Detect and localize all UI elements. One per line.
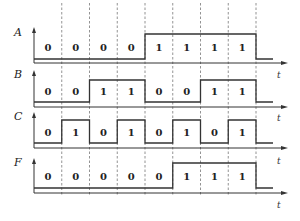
signal-row-a: At00001111	[13, 26, 288, 80]
waveform	[34, 80, 273, 102]
signal-label: C	[14, 110, 23, 123]
timing-diagram: At00001111Bt00110011Ct01010101Ft00000111	[0, 0, 300, 221]
interval-value: 1	[239, 171, 246, 182]
time-axis-arrow-icon	[281, 61, 288, 65]
interval-value: 0	[44, 171, 51, 182]
interval-value: 1	[211, 86, 218, 97]
signal-label: A	[13, 26, 22, 39]
interval-value: 0	[72, 171, 79, 182]
waveform	[34, 34, 273, 59]
time-axis-arrow-icon	[281, 191, 288, 195]
y-axis-arrow-icon	[32, 27, 36, 33]
time-axis-arrow-icon	[281, 105, 288, 109]
signal-row-c: Ct01010101	[14, 110, 288, 166]
interval-value: 0	[72, 86, 79, 97]
signal-row-f: Ft00000111	[13, 156, 288, 210]
y-axis-arrow-icon	[32, 112, 36, 118]
interval-value: 1	[72, 127, 79, 138]
interval-value: 0	[128, 42, 135, 53]
time-axis-label: t	[277, 113, 281, 123]
y-axis-arrow-icon	[32, 70, 36, 76]
interval-value: 1	[183, 171, 190, 182]
interval-value: 0	[44, 127, 51, 138]
interval-value: 0	[128, 171, 135, 182]
signal-row-b: Bt00110011	[13, 68, 288, 123]
interval-value: 1	[239, 42, 246, 53]
interval-value: 0	[183, 86, 190, 97]
waveform	[34, 120, 273, 143]
interval-value: 1	[100, 86, 107, 97]
interval-value: 1	[183, 42, 190, 53]
interval-value: 0	[155, 127, 162, 138]
interval-value: 0	[211, 127, 218, 138]
waveform	[34, 163, 273, 188]
time-axis-label: t	[277, 200, 281, 210]
interval-value: 1	[155, 42, 162, 53]
interval-value: 0	[44, 86, 51, 97]
interval-value: 1	[239, 86, 246, 97]
interval-value: 1	[211, 171, 218, 182]
y-axis-arrow-icon	[32, 158, 36, 164]
interval-value: 1	[128, 127, 135, 138]
interval-value: 0	[100, 171, 107, 182]
interval-value: 0	[72, 42, 79, 53]
interval-value: 1	[183, 127, 190, 138]
interval-value: 0	[44, 42, 51, 53]
time-axis-arrow-icon	[281, 146, 288, 150]
time-axis-label: t	[277, 70, 281, 80]
interval-value: 0	[100, 127, 107, 138]
interval-value: 0	[155, 86, 162, 97]
time-axis-label: t	[277, 156, 281, 166]
interval-value: 1	[128, 86, 135, 97]
signal-label: F	[13, 156, 22, 169]
interval-value: 1	[211, 42, 218, 53]
interval-value: 1	[239, 127, 246, 138]
interval-value: 0	[155, 171, 162, 182]
interval-value: 0	[100, 42, 107, 53]
interval-gridlines	[62, 3, 256, 196]
signal-rows: At00001111Bt00110011Ct01010101Ft00000111	[13, 26, 288, 210]
signal-label: B	[13, 68, 22, 81]
